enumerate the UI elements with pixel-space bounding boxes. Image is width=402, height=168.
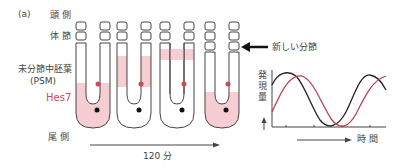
embryo-stage-2 (117, 22, 151, 128)
segmentation-clock-diagram (0, 0, 402, 168)
somite-label: 体 節 (50, 32, 71, 41)
new-segment-label: 新しい分節 (272, 43, 317, 52)
hes7-curve (272, 76, 386, 126)
psm-abbrev-label: (PSM) (30, 77, 56, 86)
expression-chart (262, 70, 387, 143)
time-axis-label: 時 間 (357, 135, 378, 144)
new-segment-arrow-icon (241, 42, 268, 52)
tail-side-label: 尾 側 (48, 133, 69, 142)
duration-arrow-icon (90, 143, 220, 148)
expression-axis-label: 発現量 (258, 70, 268, 103)
psm-label: 未分節中胚葉 (18, 65, 72, 74)
head-side-label: 頭 側 (50, 11, 71, 20)
hes7-label: Hes7 (46, 93, 71, 103)
embryo-stage-3 (160, 22, 194, 128)
embryo-stage-1 (76, 22, 110, 128)
duration-label: 120 分 (143, 152, 172, 161)
embryo-stage-4 (205, 22, 239, 128)
panel-label: (a) (18, 10, 31, 19)
